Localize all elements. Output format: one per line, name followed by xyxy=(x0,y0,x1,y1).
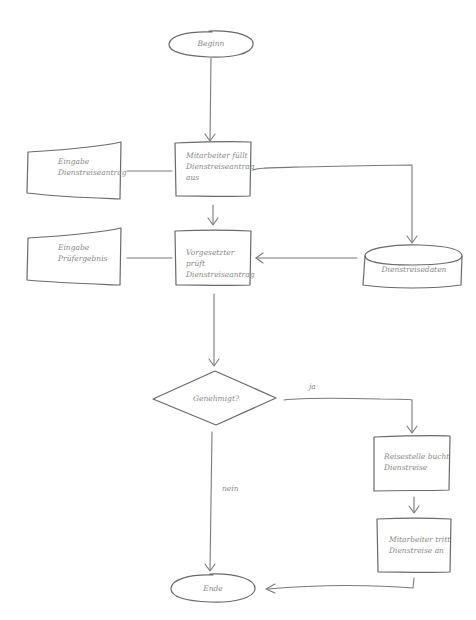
decision-label: Genehmigt? xyxy=(188,393,244,404)
travel-data-label: Dienstreisedaten xyxy=(372,264,456,275)
flowchart-canvas xyxy=(0,0,476,620)
edge-check-to-decision xyxy=(209,294,219,366)
edge-no xyxy=(205,432,215,571)
edge-book-to-start xyxy=(409,497,419,513)
edge-fill-to-check xyxy=(208,205,218,225)
book-trip-label: Reisestelle bucht Dienstreise xyxy=(384,451,450,473)
no-edge-label: nein xyxy=(222,483,246,494)
fill-request-label: Mitarbeiter füllt Dienstreiseantrag aus xyxy=(186,150,250,183)
supervisor-check-label: Vorgesetzter prüft Dienstreiseantrag xyxy=(186,247,254,280)
edge-start-to-fill xyxy=(205,58,215,141)
start-trip-label: Mitarbeiter tritt Dienstreise an xyxy=(389,534,453,556)
edge-database-to-check xyxy=(256,253,357,263)
start-label: Beginn xyxy=(186,38,236,49)
end-label: Ende xyxy=(190,583,236,594)
input-request-label: Eingabe Dienstreiseantrag xyxy=(58,156,122,178)
input-check-label: Eingabe Prüfergebnis xyxy=(58,242,122,264)
edge-fill-to-database xyxy=(253,165,417,243)
yes-edge-label: ja xyxy=(309,381,329,392)
edge-start-trip-to-end xyxy=(266,578,414,593)
edge-yes xyxy=(284,398,417,433)
